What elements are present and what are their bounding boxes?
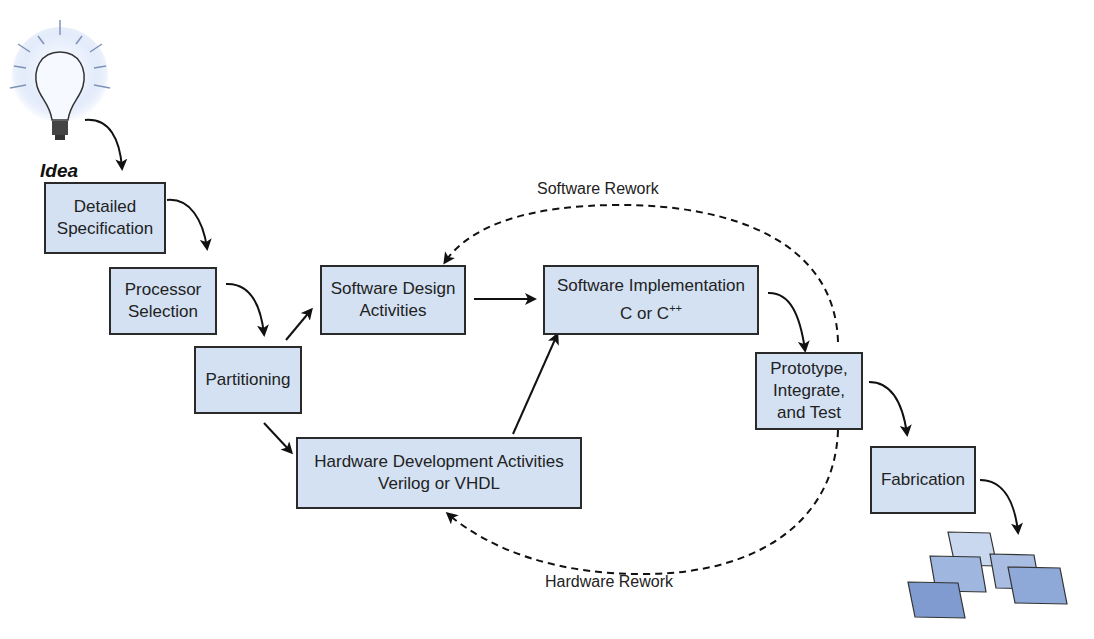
box-text: Specification — [57, 218, 153, 240]
box-software-design-activities: Software Design Activities — [320, 265, 466, 335]
box-processor-selection: Processor Selection — [109, 267, 217, 335]
box-text: Detailed — [57, 196, 153, 218]
box-text: Integrate, — [770, 380, 848, 402]
box-text: Software Implementation — [557, 275, 745, 297]
box-hardware-development-activities: Hardware Development Activities Verilog … — [296, 437, 582, 509]
box-text: Partitioning — [205, 369, 290, 391]
box-software-implementation: Software Implementation C or C++ — [543, 265, 759, 335]
box-text: and Test — [770, 402, 848, 424]
box-text: Fabrication — [881, 469, 965, 491]
hardware-rework-label: Hardware Rework — [545, 573, 673, 591]
box-text: Software Design — [331, 278, 456, 300]
box-text: Selection — [125, 301, 202, 323]
idea-label: Idea — [40, 160, 78, 182]
box-prototype-integrate-test: Prototype, Integrate, and Test — [755, 352, 863, 430]
box-text: Hardware Development Activities — [314, 451, 563, 473]
box-text: C or C — [620, 304, 669, 323]
ic-chips-icon — [908, 532, 1067, 618]
box-text: Prototype, — [770, 358, 848, 380]
box-text-lang: C or C++ — [557, 297, 745, 325]
box-text-superscript: ++ — [669, 302, 682, 314]
software-rework-label: Software Rework — [537, 180, 659, 198]
box-partitioning: Partitioning — [194, 346, 302, 414]
box-text: Processor — [125, 279, 202, 301]
box-text: Verilog or VHDL — [314, 473, 563, 495]
box-detailed-specification: Detailed Specification — [44, 182, 166, 254]
box-fabrication: Fabrication — [870, 446, 976, 514]
box-text: Activities — [331, 300, 456, 322]
design-flow-diagram: Idea Detailed Specification Processor Se… — [0, 0, 1094, 639]
lightbulb-icon — [10, 20, 110, 140]
